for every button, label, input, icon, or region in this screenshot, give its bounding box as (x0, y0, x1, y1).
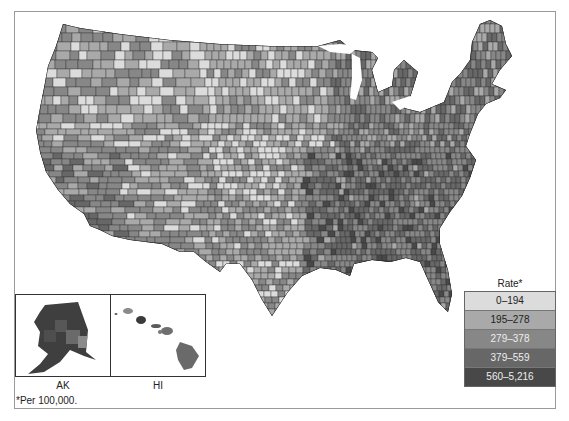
legend-title: Rate* (464, 276, 556, 291)
legend-item: 560–5,216 (465, 367, 555, 386)
legend-label: 560–5,216 (486, 371, 533, 382)
footnote: *Per 100,000. (16, 395, 77, 406)
legend: Rate* 0–194 195–278 279–378 379–559 560–… (464, 276, 556, 387)
legend-item: 0–194 (465, 292, 555, 310)
legend-item: 379–559 (465, 348, 555, 367)
legend-label: 279–378 (491, 333, 530, 344)
legend-label: 379–559 (491, 352, 530, 363)
legend-item: 279–378 (465, 329, 555, 348)
legend-item: 195–278 (465, 310, 555, 329)
alaska-map (20, 295, 105, 375)
hawaii-label: HI (110, 380, 206, 391)
legend-label: 195–278 (491, 314, 530, 325)
legend-box: 0–194 195–278 279–378 379–559 560–5,216 (464, 291, 556, 387)
hawaii-map (115, 308, 200, 370)
legend-label: 0–194 (496, 295, 524, 306)
alaska-label: AK (15, 380, 111, 391)
